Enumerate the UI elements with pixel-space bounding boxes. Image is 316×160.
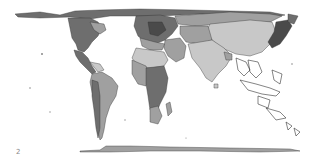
madagascar <box>166 102 172 116</box>
figure-label: 2 <box>16 148 20 156</box>
southeast-asia-islands <box>236 58 300 136</box>
africa-south <box>150 106 162 124</box>
antarctica <box>80 146 300 152</box>
japan <box>288 14 298 24</box>
sri-lanka <box>214 84 218 88</box>
south-america-west <box>92 80 100 138</box>
central-america <box>74 50 96 74</box>
world-cartogram <box>0 0 316 160</box>
